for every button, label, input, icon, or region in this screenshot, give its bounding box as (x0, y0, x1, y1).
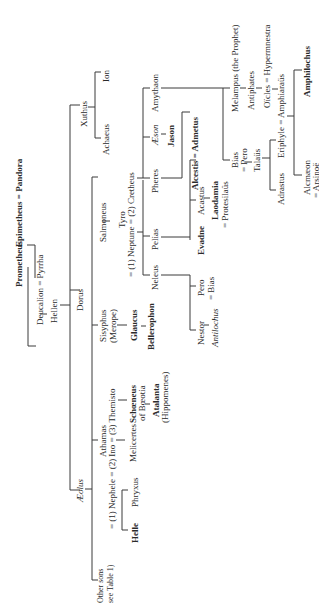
node-eriphyle-amphiaraus: Eriphyle = Amphiaraüs (276, 74, 286, 158)
node-phryxus: Phryxus (130, 477, 140, 507)
node-other-sons-note: see Table 1) (106, 565, 116, 603)
node-amythaon: Amythaon (150, 74, 160, 112)
node-prometheus: Prometheus (14, 241, 24, 287)
node-dorus: Dorus (75, 289, 85, 311)
node-aeson: Æson (150, 124, 160, 145)
node-schoeneus-of-boeotia: of Bœotia (137, 385, 147, 421)
node-arsinoe: = Arsinoë (311, 163, 319, 198)
node-oecles-hypermnestra: Oïcles = Hypermnestra (262, 24, 272, 108)
node-evadne: Evadne (196, 226, 206, 255)
node-laodamia: Laodamia (210, 181, 220, 220)
node-other-sons: Other sons (96, 569, 106, 603)
node-aeolus: Æolus (75, 479, 85, 502)
node-pelias: Pelias (150, 229, 160, 251)
node-nestor: Nestor (196, 321, 206, 345)
node-glaucus: Glaucus (129, 309, 139, 341)
node-deucalion-pyrrha: Deucalion = Pyrrha (35, 254, 45, 325)
node-merope: (Merope) (108, 309, 118, 343)
node-ion: Ion (101, 70, 111, 82)
node-athamas-wives: = (1) Nephele = (2) Ino = (3) Themisto (107, 388, 117, 529)
node-pero: Pero (196, 280, 206, 297)
node-achaeus: Achaeus (101, 124, 111, 155)
node-talaus: Talaüs (252, 149, 262, 172)
node-pheres: Pheres (150, 169, 160, 193)
node-bellerophon: Bellerophon (146, 303, 156, 350)
node-helle: Helle (130, 523, 140, 543)
node-melicertes: Melicertes (128, 424, 138, 462)
node-adrastus: Adrastus (276, 173, 286, 205)
node-xuthus: Xuthus (79, 101, 89, 127)
node-pero-bias: = Bias (206, 277, 216, 300)
node-alcestis-admetus: Alcestis = Admetus (190, 117, 200, 190)
node-neleus: Neleus (150, 265, 160, 290)
node-protesilaus: = Protesilaüs (220, 181, 230, 228)
node-hippomenes: (Hippomenes) (160, 372, 170, 424)
node-epimetheus-pandora: Epimetheus = Pandora (14, 159, 24, 247)
node-antilochus: Antilochus (210, 309, 220, 348)
node-jason: Jason (166, 125, 176, 147)
node-antiphates: Antiphates (246, 71, 256, 110)
node-bias-pero: = Pero (239, 148, 249, 172)
node-salmoneus: Salmoneus (98, 203, 108, 243)
genealogy-tree: Prometheus Epimetheus = Pandora Deucalio… (0, 0, 319, 612)
node-melampus: Melampus (the Prophet) (230, 25, 240, 112)
node-acastus: Acastus (196, 187, 206, 216)
node-sisyphus: Sisyphus (98, 309, 108, 342)
node-amphilochus: Amphilochus (302, 46, 312, 97)
node-hellen: Hellen (49, 299, 59, 323)
node-tyro-spouses: = (1) Neptune = (2) Cretheus (126, 172, 136, 277)
